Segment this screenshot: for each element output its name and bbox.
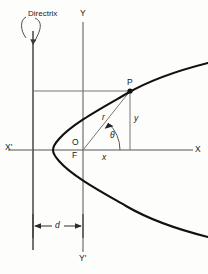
radius-label: r: [102, 113, 105, 122]
origin-label: O: [72, 138, 79, 147]
y-axis-bottom-label: Y': [79, 254, 86, 263]
abscissa-label: x: [102, 153, 106, 162]
directrix-leader-arrow-curve: [34, 18, 40, 42]
x-axis-right-label: X: [195, 145, 201, 154]
d-arrowhead-left: [34, 223, 41, 229]
point-p-marker: [127, 88, 132, 93]
angle-label: θ: [110, 131, 115, 140]
distance-label: d: [55, 221, 60, 230]
ordinate-label: y: [134, 114, 138, 123]
directrix-leader-curve: [22, 17, 27, 38]
focus-label: F: [72, 151, 77, 160]
directrix-leader-arrowhead: [30, 39, 36, 45]
x-axis-left-label: X': [5, 143, 12, 152]
y-axis-top-label: Y: [80, 9, 86, 18]
figure-canvas: [0, 0, 208, 274]
d-arrowhead-right: [75, 223, 82, 229]
radius-vector-line: [83, 91, 130, 150]
directrix-label: Directrix: [28, 10, 57, 18]
parabola-figure: Directrix Y Y' X X' O F P r θ y x d: [0, 0, 208, 274]
point-p-label: P: [127, 78, 133, 87]
